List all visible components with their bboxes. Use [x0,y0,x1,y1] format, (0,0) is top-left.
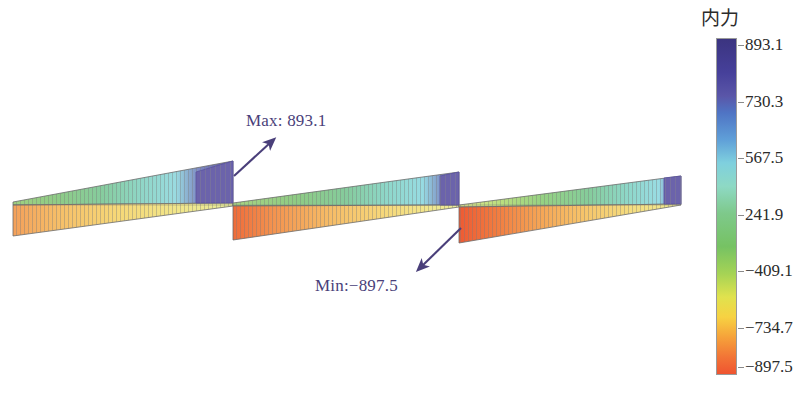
min-value-annotation: Min:−897.5 [315,276,398,296]
span-2-group [233,172,459,240]
min-leader-arrow [421,228,461,267]
colorbar-tick-label-6: −897.5 [745,357,793,377]
diagram-svg [0,0,690,400]
span-3-positive-hatch [459,176,681,207]
legend-title: 内力 [701,3,739,30]
span-1-group [13,161,233,236]
max-value-annotation: Max: 893.1 [246,111,326,131]
colorbar-tick-mark-2 [738,158,744,159]
colorbar-tick-label-1: 730.3 [745,92,783,112]
span-3-group [459,176,681,243]
colorbar-tick-label-2: 567.5 [745,148,783,168]
span-3-peak-block-hatch [664,176,681,204]
span-2-peak-block-hatch [440,172,459,205]
colorbar-tick-mark-6 [738,367,744,368]
legend-panel: 内力 893.1730.3567.5241.9−409.1−734.7−897.… [690,0,811,400]
span-2-positive-hatch [233,172,459,206]
colorbar-tick-label-0: 893.1 [745,35,783,55]
colorbar-tick-label-4: −409.1 [745,261,793,281]
colorbar-tick-label-3: 241.9 [745,205,783,225]
colorbar-tick-mark-0 [738,45,744,46]
colorbar [716,38,737,375]
span-1-negative-hatch [13,203,233,236]
max-leader-arrow [234,142,271,176]
span-2-negative-hatch [233,205,459,240]
colorbar-tick-mark-1 [738,102,744,103]
colorbar-tick-label-5: −734.7 [745,318,793,338]
colorbar-gradient [717,39,736,374]
span-3-negative-hatch [459,204,681,243]
internal-force-diagram: Max: 893.1 Min:−897.5 [0,0,690,400]
colorbar-tick-mark-4 [738,271,744,272]
colorbar-tick-mark-5 [738,328,744,329]
figure-root: Max: 893.1 Min:−897.5 内力 893.1730.3567.5… [0,0,811,400]
colorbar-tick-mark-3 [738,215,744,216]
